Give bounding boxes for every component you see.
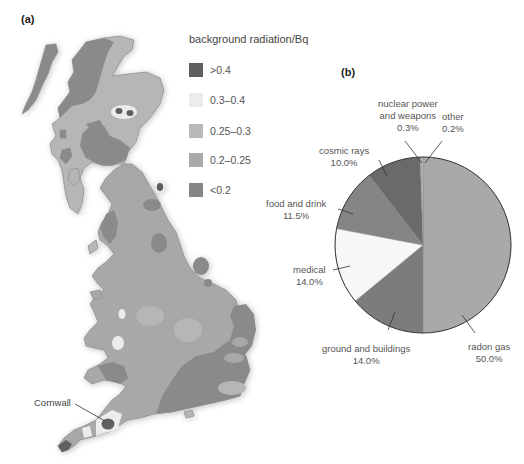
legend-swatch [189,93,203,107]
legend-label: <0.2 [210,184,231,196]
legend-swatch [189,124,203,138]
legend-swatch [189,183,203,197]
legend-label: 0.3–0.4 [210,94,245,106]
radiation-map [0,0,524,464]
legend-item-0-3-0-4: 0.3–0.4 [189,93,245,107]
pie-label-medical: medical 14.0% [293,264,326,288]
pie-label-food-and-drink: food and drink 11.5% [266,198,326,222]
pie-label-radon-gas: radon gas 50.0% [468,341,510,365]
legend-swatch [189,63,203,77]
legend-item-0-25-0-3: 0.25–0.3 [189,124,251,138]
pie-label-other: other 0.2% [442,111,464,135]
cornwall-leader-line [75,404,105,421]
pie-label-nuclear: nuclear power and weapons 0.3% [378,98,438,134]
pie-label-cosmic-rays: cosmic rays 10.0% [319,145,369,169]
legend-swatch [189,153,203,167]
legend-item-gt-0-4: >0.4 [189,63,231,77]
cornwall-label: Cornwall [34,397,71,408]
legend-item-0-2-0-25: 0.2–0.25 [189,153,251,167]
legend-label: 0.25–0.3 [210,125,251,137]
legend-title: background radiation/Bq [189,33,308,45]
legend-label: 0.2–0.25 [210,154,251,166]
legend-item-lt-0-2: <0.2 [189,183,231,197]
legend-label: >0.4 [210,64,231,76]
pie-label-ground-and-buildings: ground and buildings 14.0% [322,343,410,367]
